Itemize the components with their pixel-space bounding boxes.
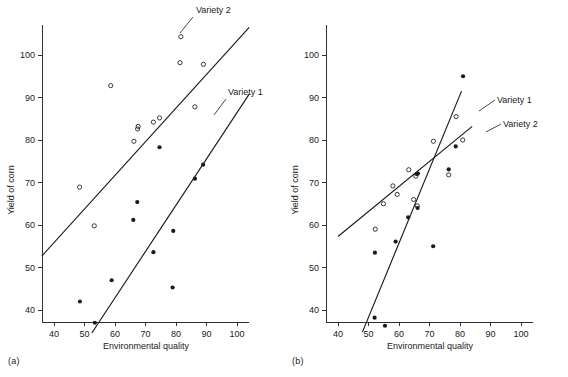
series-annotation: Variety 2: [486, 119, 538, 132]
y-tick-label: 70: [309, 178, 319, 188]
data-point-open: [193, 105, 197, 109]
series-annotation: Variety 2: [180, 5, 231, 33]
data-point-open: [381, 202, 385, 206]
y-tick-label: 60: [309, 220, 319, 230]
series-label: Variety 1: [228, 87, 263, 97]
data-point-open: [373, 227, 377, 231]
y-tick-label: 80: [309, 135, 319, 145]
data-point-open: [109, 84, 113, 88]
data-point-filled: [454, 144, 458, 148]
data-point-open: [431, 139, 435, 143]
data-point-open: [136, 124, 140, 128]
y-tick-label: 40: [309, 305, 319, 315]
axis-lines: [326, 25, 533, 322]
data-point-filled: [171, 229, 175, 233]
x-tick-label: 60: [110, 329, 120, 339]
axis-lines: [42, 25, 249, 322]
data-point-filled: [447, 167, 451, 171]
x-tick-label: 50: [79, 329, 89, 339]
panel-b: 405060708090100405060708090100Environmen…: [290, 25, 538, 351]
data-point-filled: [373, 251, 377, 255]
x-tick-label: 90: [485, 329, 495, 339]
y-tick-label: 50: [25, 263, 35, 273]
regression-line: [92, 94, 249, 333]
x-tick-label: 60: [394, 329, 404, 339]
data-point-filled: [201, 163, 205, 167]
data-point-filled: [461, 74, 465, 78]
data-point-open: [412, 197, 416, 201]
data-point-open: [178, 61, 182, 65]
data-point-open: [157, 116, 161, 120]
panel-caption-a: (a): [8, 356, 20, 366]
y-tick-label: 90: [25, 93, 35, 103]
x-axis-title: Environmental quality: [103, 341, 190, 351]
annotation-leader-line: [214, 99, 226, 115]
data-point-filled: [373, 316, 377, 320]
x-tick-label: 70: [424, 329, 434, 339]
data-point-open: [407, 168, 411, 172]
data-point-open: [447, 173, 451, 177]
series-variety-2: [338, 115, 472, 237]
data-point-filled: [193, 177, 197, 181]
data-point-filled: [135, 200, 139, 204]
data-point-filled: [394, 239, 398, 243]
panel-a: 405060708090100405060708090100Environmen…: [6, 5, 263, 351]
data-point-open: [454, 115, 458, 119]
data-point-open: [179, 35, 183, 39]
x-tick-label: 80: [171, 329, 181, 339]
x-tick-label: 100: [229, 329, 244, 339]
series-label: Variety 2: [196, 5, 231, 15]
x-axis-ticks: 405060708090100: [49, 322, 245, 339]
y-axis-ticks: 405060708090100: [20, 50, 42, 315]
data-point-open: [132, 139, 136, 143]
annotation-leader-line: [479, 100, 495, 111]
y-tick-label: 100: [20, 50, 35, 60]
data-point-open: [151, 120, 155, 124]
panel-caption-b: (b): [292, 356, 304, 366]
series-label: Variety 1: [497, 95, 532, 105]
y-tick-label: 90: [309, 93, 319, 103]
annotation-leader-line: [180, 17, 193, 33]
data-point-filled: [383, 324, 387, 328]
annotation-leader-line: [486, 124, 501, 132]
x-tick-label: 40: [333, 329, 343, 339]
x-axis-ticks: 405060708090100: [333, 322, 529, 339]
data-point-filled: [110, 278, 114, 282]
figure-container: 405060708090100405060708090100Environmen…: [0, 0, 568, 377]
data-point-filled: [131, 218, 135, 222]
x-tick-label: 100: [513, 329, 528, 339]
y-tick-label: 80: [25, 135, 35, 145]
series-label: Variety 2: [503, 119, 538, 129]
data-point-open: [92, 224, 96, 228]
regression-line: [362, 91, 461, 332]
y-tick-label: 50: [309, 263, 319, 273]
data-point-open: [78, 185, 82, 189]
data-point-open: [201, 62, 205, 66]
data-point-filled: [171, 285, 175, 289]
data-point-filled: [93, 321, 97, 325]
y-tick-label: 100: [304, 50, 319, 60]
x-tick-label: 50: [363, 329, 373, 339]
regression-line: [338, 126, 472, 236]
x-tick-label: 40: [49, 329, 59, 339]
data-point-filled: [406, 215, 410, 219]
y-tick-label: 60: [25, 220, 35, 230]
scatter-figure: 405060708090100405060708090100Environmen…: [0, 0, 568, 377]
x-tick-label: 90: [201, 329, 211, 339]
series-variety-1: [78, 94, 249, 333]
data-point-open: [395, 192, 399, 196]
y-tick-label: 40: [25, 305, 35, 315]
data-point-open: [391, 184, 395, 188]
series-annotation: Variety 1: [479, 95, 532, 111]
data-point-filled: [157, 145, 161, 149]
x-axis-title: Environmental quality: [387, 341, 474, 351]
data-point-filled: [78, 299, 82, 303]
data-point-filled: [431, 244, 435, 248]
x-tick-label: 70: [140, 329, 150, 339]
y-axis-title: Yield of corn: [290, 165, 300, 215]
y-axis-ticks: 405060708090100: [304, 50, 326, 315]
y-axis-title: Yield of corn: [6, 165, 16, 215]
x-tick-label: 80: [455, 329, 465, 339]
data-point-open: [461, 138, 465, 142]
y-tick-label: 70: [25, 178, 35, 188]
